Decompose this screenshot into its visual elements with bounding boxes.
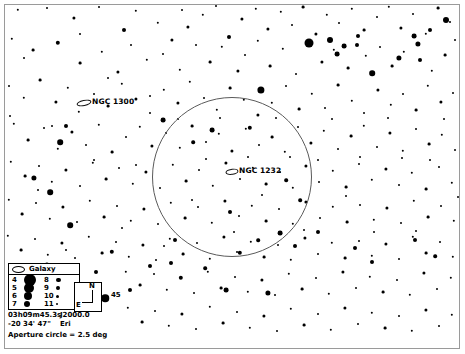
- star-point: [440, 205, 442, 207]
- star-point: [436, 288, 438, 290]
- star-point: [13, 123, 15, 125]
- star-point: [79, 185, 81, 187]
- star-point: [88, 236, 90, 238]
- star-point: [415, 230, 417, 232]
- star-point: [363, 29, 366, 32]
- star-point: [74, 257, 76, 259]
- galaxy-label: NGC 1232: [239, 166, 281, 175]
- star-point: [269, 65, 272, 68]
- star-point: [451, 314, 453, 316]
- star-point: [57, 139, 63, 145]
- star-point: [359, 156, 361, 158]
- star-point: [34, 238, 36, 240]
- star-point: [128, 288, 132, 292]
- star-point: [61, 205, 64, 208]
- star-point: [363, 112, 365, 114]
- star-point: [257, 40, 259, 42]
- star-point: [38, 165, 40, 167]
- star-point: [376, 146, 378, 148]
- star-point: [411, 172, 413, 174]
- star-point: [203, 97, 205, 99]
- star-point: [450, 277, 452, 279]
- star-point: [122, 28, 126, 32]
- star-point: [135, 10, 137, 12]
- star-point: [271, 102, 273, 104]
- star-point: [291, 24, 293, 26]
- legend-magnitude-cell: 7: [12, 300, 44, 308]
- star-point: [298, 108, 301, 111]
- star-point: [220, 287, 223, 290]
- star-point: [396, 55, 401, 60]
- star-point: [134, 97, 137, 100]
- star-point: [173, 238, 177, 242]
- star-point: [148, 264, 152, 268]
- compass-east-line: [82, 302, 93, 303]
- star-point: [429, 159, 431, 161]
- star-point: [457, 196, 459, 198]
- star-point: [337, 148, 339, 150]
- star-point: [47, 254, 49, 256]
- star-point: [398, 258, 400, 260]
- star-point: [11, 38, 13, 40]
- star-point: [23, 97, 25, 99]
- star-point: [357, 323, 359, 325]
- star-point: [203, 266, 207, 270]
- star-point: [115, 241, 117, 243]
- star-point: [418, 58, 422, 62]
- star-point: [351, 100, 353, 102]
- star-point: [93, 159, 95, 161]
- star-point: [288, 273, 290, 275]
- legend-magnitude-rows: 4859610711: [9, 275, 79, 309]
- star-point: [353, 246, 357, 250]
- star-point: [317, 313, 319, 315]
- coordinate-row-dec: -20 34' 47" Eri: [8, 320, 90, 329]
- star-point: [32, 49, 35, 52]
- star-point: [323, 130, 325, 132]
- star-point: [439, 241, 441, 243]
- star-point: [125, 136, 127, 138]
- star-point: [193, 292, 195, 294]
- star-point: [345, 195, 347, 197]
- star-point: [317, 159, 319, 161]
- star-point: [101, 51, 103, 53]
- star-point: [425, 252, 428, 255]
- legend-magnitude-row: 610: [12, 292, 76, 300]
- star-point: [290, 259, 292, 261]
- star-point: [428, 143, 431, 146]
- star-point: [209, 258, 211, 260]
- star-point: [347, 67, 350, 70]
- star-point: [20, 249, 23, 252]
- star-point: [255, 8, 257, 10]
- star-point: [295, 73, 297, 75]
- star-point: [332, 170, 334, 172]
- legend-magnitude-cell: 8: [44, 276, 76, 284]
- star-point: [162, 53, 164, 55]
- star-point: [342, 44, 347, 49]
- star-point: [427, 85, 429, 87]
- star-point: [398, 315, 400, 317]
- star-point: [403, 51, 405, 53]
- star-point: [157, 22, 159, 24]
- star-point: [76, 221, 78, 223]
- star-point: [376, 16, 378, 18]
- star-point: [443, 17, 449, 23]
- star-point: [202, 14, 204, 16]
- star-point: [356, 34, 360, 38]
- star-point: [221, 46, 223, 48]
- galaxy-ellipse-icon: [12, 266, 25, 273]
- star-point: [89, 200, 91, 202]
- star-point: [127, 307, 129, 309]
- star-point: [260, 278, 263, 281]
- star-point: [262, 314, 265, 317]
- star-point: [130, 44, 132, 46]
- star-point: [72, 16, 75, 19]
- star-point: [37, 189, 39, 191]
- star-point: [186, 25, 189, 28]
- star-point: [236, 69, 239, 72]
- star-point: [388, 6, 390, 8]
- star-point: [424, 308, 427, 311]
- star-point: [189, 81, 191, 83]
- star-point: [332, 206, 334, 208]
- star-point: [103, 216, 106, 219]
- star-point: [51, 125, 53, 127]
